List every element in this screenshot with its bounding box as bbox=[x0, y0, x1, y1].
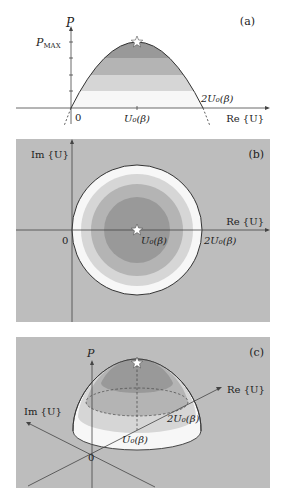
panel-c: P (c) Re {U} Im {U} 0 U₀(β) 2U₀(β) bbox=[16, 337, 270, 488]
curve-extension-right bbox=[203, 108, 210, 126]
p-axis-label-c: P bbox=[86, 347, 95, 360]
im-axis-label-b: Im {U} bbox=[31, 149, 69, 160]
center-label-b: U₀(β) bbox=[141, 235, 167, 246]
center-label-a: U₀(β) bbox=[124, 113, 150, 124]
panel-b: Im {U} (b) Re {U} 0 U₀(β) 2U₀(β) bbox=[16, 139, 270, 322]
x-axis-arrow-icon bbox=[265, 106, 270, 110]
panel-tag-c: (c) bbox=[249, 346, 264, 359]
x-axis-label-a: Re {U} bbox=[226, 113, 264, 124]
root-label-a: 2U₀(β) bbox=[200, 93, 233, 104]
im-axis-label-c: Im {U} bbox=[24, 406, 62, 417]
center-label-c: U₀(β) bbox=[122, 434, 148, 445]
origin-label-b: 0 bbox=[62, 235, 68, 246]
re-axis-label-c: Re {U} bbox=[227, 384, 265, 395]
panel-tag-b: (b) bbox=[248, 148, 264, 161]
re-axis-label-b: Re {U} bbox=[226, 216, 264, 227]
origin-label-c: 0 bbox=[88, 452, 94, 463]
origin-label-a: 0 bbox=[75, 112, 81, 123]
edge-label-b: 2U₀(β) bbox=[203, 235, 236, 246]
panel-a: P PMAX (a) 0 U₀(β) 2U₀(β) Re {U} bbox=[16, 15, 270, 126]
curve-extension-left bbox=[64, 108, 71, 126]
pmax-label: PMAX bbox=[35, 36, 61, 50]
y-axis-label: P bbox=[65, 16, 75, 30]
edge-label-c: 2U₀(β) bbox=[166, 413, 199, 424]
figure: P PMAX (a) 0 U₀(β) 2U₀(β) Re {U} Im {U} … bbox=[0, 0, 281, 496]
panel-tag-a: (a) bbox=[240, 15, 255, 28]
